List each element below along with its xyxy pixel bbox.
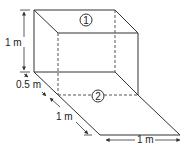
region-2-label: 2 [95, 91, 101, 102]
diagram-container: 1 m 0.5 m 1 m 1 m 1 2 [0, 0, 195, 150]
box-hidden-edges [58, 10, 138, 95]
slope-label: 1 m [56, 111, 73, 122]
height-label: 1 m [5, 37, 22, 48]
width-label: 1 m [137, 134, 154, 145]
offset-label: 0.5 m [16, 79, 41, 90]
region-1-label: 1 [83, 15, 89, 26]
tank-diagram: 1 m 0.5 m 1 m 1 m 1 2 [0, 0, 195, 150]
